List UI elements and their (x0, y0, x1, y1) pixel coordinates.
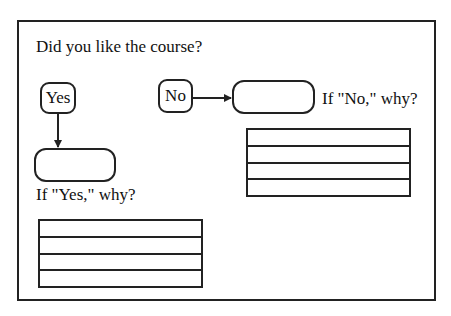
no-option[interactable]: No (158, 79, 193, 113)
no-label: No (165, 86, 186, 106)
no-reason-line-1[interactable] (248, 130, 409, 147)
yes-answer-box[interactable] (34, 148, 116, 182)
no-reason-lines[interactable] (246, 128, 411, 197)
yes-reason-line-3[interactable] (40, 255, 201, 272)
yes-option[interactable]: Yes (40, 82, 76, 114)
no-reason-line-4[interactable] (248, 180, 409, 195)
yes-label: Yes (46, 88, 71, 108)
yes-reason-line-4[interactable] (40, 271, 201, 286)
yes-reason-line-1[interactable] (40, 221, 201, 238)
yes-reason-lines[interactable] (38, 219, 203, 288)
no-reason-line-2[interactable] (248, 147, 409, 164)
no-reason-line-3[interactable] (248, 164, 409, 181)
yes-followup-text: If "Yes," why? (36, 185, 136, 205)
no-followup-text: If "No," why? (322, 89, 418, 109)
yes-reason-line-2[interactable] (40, 238, 201, 255)
no-answer-box[interactable] (232, 80, 315, 114)
